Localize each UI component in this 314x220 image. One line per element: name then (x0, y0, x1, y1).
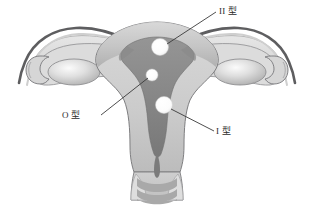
right-ovary (214, 59, 266, 85)
left-ovary (48, 59, 100, 85)
label-type-0: O 型 (62, 110, 81, 121)
label-type-2: II 型 (219, 6, 237, 17)
uterine-fibroid-diagram: II 型 O 型 I 型 (0, 0, 314, 220)
fibroid-type-1 (156, 97, 173, 114)
anatomy-illustration (0, 0, 314, 220)
fibroid-type-2 (152, 39, 169, 56)
fibroid-type-0 (146, 69, 158, 81)
label-type-1: I 型 (216, 126, 231, 137)
